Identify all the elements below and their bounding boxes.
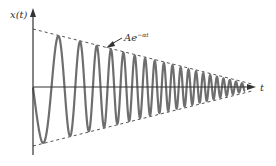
annotation-arrow-icon [106, 41, 115, 48]
x-axis-label: t [260, 82, 265, 93]
y-axis-arrow-icon [30, 8, 36, 17]
damped-oscillation-figure: x(t) t Ae−αt [0, 0, 276, 166]
signal-curve [33, 36, 245, 143]
y-axis-label: x(t) [10, 9, 28, 20]
x-axis-arrow-icon [247, 84, 256, 90]
envelope-label: Ae−αt [123, 31, 149, 43]
